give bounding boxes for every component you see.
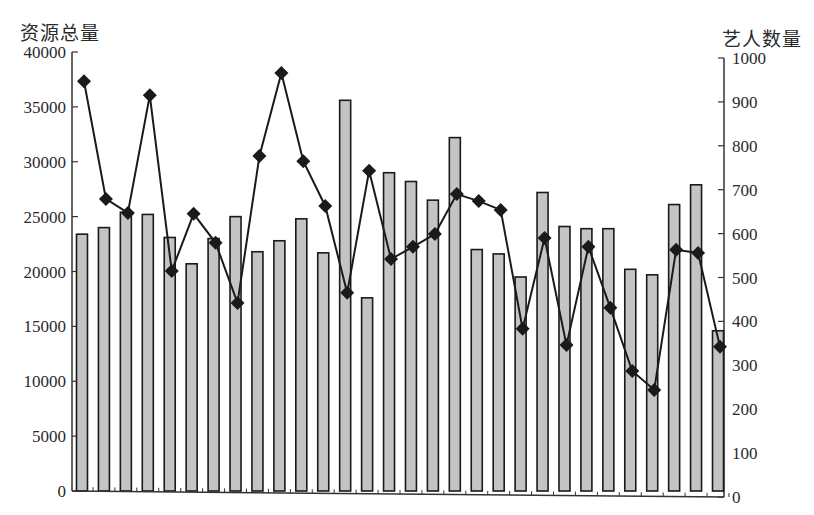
bar [296, 219, 307, 491]
left-tick-label: 30000 [24, 153, 67, 172]
right-tick-label: 200 [732, 400, 758, 419]
right-tick-label: 100 [732, 444, 758, 463]
right-tick-label: 900 [732, 93, 758, 112]
bar [318, 253, 329, 491]
left-tick-label: 25000 [24, 208, 67, 227]
bar [493, 254, 504, 491]
bar [691, 185, 702, 491]
diamond-marker [99, 192, 113, 206]
diamond-marker [296, 154, 310, 168]
right-tick-label: 400 [732, 312, 758, 331]
bar [405, 182, 416, 491]
left-tick-label: 0 [58, 482, 67, 501]
bar [98, 228, 109, 491]
diamond-marker [274, 66, 288, 80]
right-tick-label: 0 [732, 488, 741, 507]
left-tick-label: 40000 [24, 43, 67, 62]
diamond-marker [472, 194, 486, 208]
left-tick-label: 20000 [24, 263, 67, 282]
bar [713, 331, 724, 491]
bar [77, 234, 88, 491]
bar [230, 217, 241, 491]
left-tick-label: 35000 [24, 98, 67, 117]
combo-chart: 0500010000150002000025000300003500040000… [0, 0, 814, 515]
bar-series [77, 100, 724, 491]
right-tick-label: 300 [732, 356, 758, 375]
diamond-marker [77, 74, 91, 88]
bar [186, 264, 197, 491]
left-tick-label: 10000 [24, 372, 67, 391]
right-tick-label: 1000 [732, 49, 766, 68]
diamond-marker [494, 203, 508, 217]
bar [252, 252, 263, 491]
left-axis: 0500010000150002000025000300003500040000 [24, 43, 79, 501]
right-tick-label: 700 [732, 181, 758, 200]
diamond-marker [318, 199, 332, 213]
bar [142, 214, 153, 491]
left-tick-label: 5000 [32, 427, 66, 446]
right-tick-label: 800 [732, 137, 758, 156]
right-tick-label: 500 [732, 269, 758, 288]
right-axis: 01002003004005006007008009001000 [718, 49, 766, 507]
diamond-marker [143, 88, 157, 102]
bar [208, 239, 219, 491]
right-tick-label: 600 [732, 225, 758, 244]
bar [603, 229, 614, 491]
bar [384, 173, 395, 491]
bar [427, 200, 438, 491]
diamond-marker [362, 164, 376, 178]
bar [362, 298, 373, 491]
bar [559, 227, 570, 491]
bar [581, 229, 592, 491]
bar [515, 277, 526, 491]
diamond-marker [252, 149, 266, 163]
bar [274, 241, 285, 491]
bar [471, 250, 482, 491]
left-tick-label: 15000 [24, 317, 67, 336]
bar [120, 212, 131, 491]
bar [625, 269, 636, 491]
